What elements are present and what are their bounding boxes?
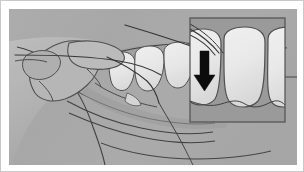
- scan-noise-overlay: [9, 9, 297, 165]
- figure-frame: [0, 0, 304, 172]
- flossing-illustration: [9, 9, 297, 165]
- figure-root: [0, 0, 304, 172]
- drawing-layer: [9, 9, 297, 165]
- illustration-canvas: [9, 9, 297, 165]
